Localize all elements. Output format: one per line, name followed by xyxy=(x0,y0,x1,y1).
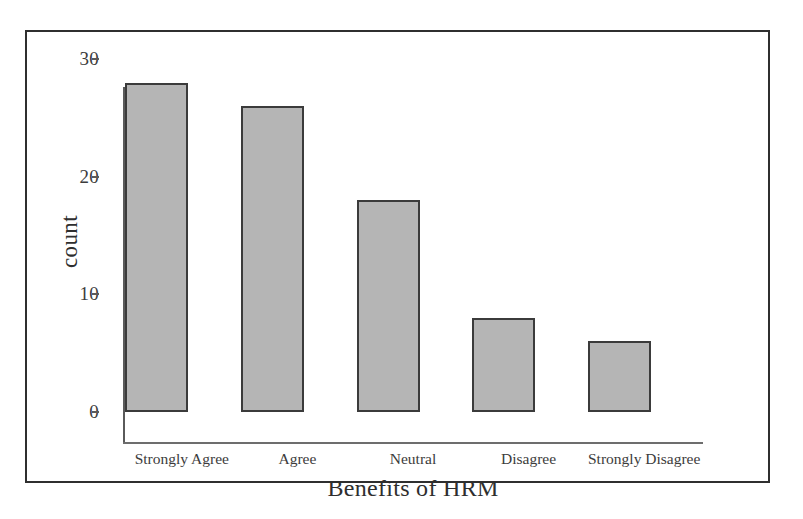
y-axis-tick-mark xyxy=(92,176,99,178)
y-axis-tick-mark xyxy=(92,293,99,295)
bar xyxy=(588,341,651,412)
bar xyxy=(357,200,420,412)
y-axis-tick-mark xyxy=(92,58,99,60)
figure-container: count 0102030 Strongly AgreeAgreeNeutral… xyxy=(0,0,803,519)
chart-panel: count 0102030 Strongly AgreeAgreeNeutral… xyxy=(25,30,770,483)
bar xyxy=(125,83,188,412)
bars-layer xyxy=(99,59,677,412)
bar xyxy=(472,318,535,412)
y-axis-tick-labels: 0102030 xyxy=(57,32,99,452)
x-axis-tick-label: Strongly Disagree xyxy=(574,450,714,467)
x-axis-tick-labels: Strongly AgreeAgreeNeutralDisagreeStrong… xyxy=(124,450,702,474)
y-axis-tick-mark xyxy=(92,411,99,413)
x-axis-title: Benefits of HRM xyxy=(124,475,702,501)
bar xyxy=(241,106,304,412)
x-axis-line xyxy=(123,442,703,444)
